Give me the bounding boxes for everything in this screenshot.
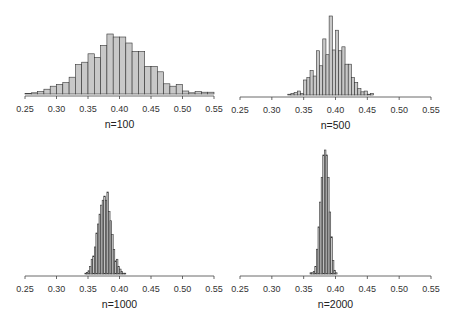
histogram-bar (195, 92, 201, 94)
x-tick-label: 0.40 (327, 105, 345, 115)
histogram-bar (176, 84, 182, 94)
histogram-bar (151, 66, 157, 94)
histogram-bar (320, 66, 323, 95)
x-axis-label: n=1000 (102, 298, 137, 310)
x-axis: 0.250.300.350.400.450.500.55 (231, 97, 440, 115)
x-tick-label: 0.35 (79, 284, 97, 294)
histogram-bar (313, 76, 316, 95)
x-axis: 0.250.300.350.400.450.500.55 (16, 276, 223, 294)
x-tick-label: 0.25 (16, 104, 34, 114)
histogram-n500: 0.250.300.350.400.450.500.55 n=500 (231, 16, 440, 131)
x-tick-label: 0.40 (327, 284, 345, 294)
x-axis: 0.250.300.350.400.450.500.55 (16, 96, 223, 114)
histogram-n100: 0.250.300.350.400.450.500.55 n=100 (16, 34, 223, 130)
histogram-bar (124, 273, 126, 274)
histogram-bar (82, 62, 88, 94)
histogram-bar (31, 93, 37, 94)
histogram-bar (300, 93, 303, 95)
x-tick-label: 0.55 (205, 284, 223, 294)
histogram-bar (132, 51, 138, 94)
histogram-bars (25, 34, 214, 94)
histogram-bar (75, 65, 81, 94)
x-tick-label: 0.55 (422, 105, 440, 115)
histogram-bars (288, 16, 374, 95)
histogram-bar (113, 37, 119, 94)
histogram-bar (294, 93, 297, 95)
x-axis-label: n=2000 (318, 298, 353, 310)
x-tick-label: 0.45 (359, 284, 377, 294)
histogram-bar (342, 47, 345, 95)
histogram-bar (189, 93, 195, 94)
histogram-bar (69, 77, 75, 94)
x-tick-label: 0.45 (142, 284, 160, 294)
histogram-bar (288, 94, 291, 95)
histogram-bar (38, 92, 44, 94)
histogram-bar (183, 91, 189, 94)
histogram-bar (126, 43, 132, 94)
histogram-bar (297, 91, 300, 95)
histogram-bar (145, 66, 151, 94)
x-tick-label: 0.25 (231, 105, 249, 115)
histogram-bar (63, 83, 69, 94)
histogram-bar (336, 30, 339, 95)
histogram-bar (164, 84, 170, 94)
x-tick-label: 0.30 (48, 104, 66, 114)
x-tick-label: 0.30 (263, 105, 281, 115)
histogram-bar (208, 92, 214, 94)
histogram-bar (351, 78, 354, 95)
histogram-bar (44, 89, 50, 94)
x-tick-label: 0.50 (390, 105, 408, 115)
histogram-bar (326, 55, 329, 95)
x-axis-label: n=500 (321, 119, 351, 131)
x-tick-label: 0.40 (111, 104, 129, 114)
histogram-bars (85, 192, 126, 274)
histogram-bar (339, 51, 342, 95)
histogram-bar (367, 94, 370, 95)
x-tick-label: 0.50 (390, 284, 408, 294)
histogram-bar (316, 51, 319, 95)
x-tick-label: 0.45 (359, 105, 377, 115)
histogram-bar (291, 93, 294, 95)
histogram-bar (57, 84, 63, 94)
histogram-bar (307, 78, 310, 95)
histogram-n1000: 0.250.300.350.400.450.500.55 n=1000 (16, 192, 223, 310)
x-tick-label: 0.35 (295, 284, 313, 294)
histogram-bar (364, 91, 367, 95)
histogram-bar (25, 93, 31, 94)
histogram-bar (304, 80, 307, 95)
histogram-bar (358, 89, 361, 95)
x-tick-label: 0.30 (48, 284, 66, 294)
x-tick-label: 0.30 (263, 284, 281, 294)
histogram-bar (101, 45, 107, 94)
histogram-bar (94, 57, 100, 94)
x-tick-label: 0.25 (16, 284, 34, 294)
histogram-bar (138, 51, 144, 94)
histogram-bar (345, 64, 348, 95)
histogram-bar (157, 72, 163, 94)
x-tick-label: 0.55 (422, 284, 440, 294)
histogram-bar (310, 71, 313, 95)
histogram-bar (107, 34, 113, 94)
x-tick-label: 0.25 (231, 284, 249, 294)
x-tick-label: 0.35 (79, 104, 97, 114)
histogram-bar (120, 37, 126, 94)
x-axis: 0.250.300.350.400.450.500.55 (231, 276, 440, 294)
histogram-bars (310, 150, 337, 274)
histogram-grid: 0.250.300.350.400.450.500.55 n=100 0.250… (0, 0, 453, 318)
histogram-bar (332, 50, 335, 95)
x-axis-label: n=100 (105, 118, 135, 130)
histogram-bar (329, 16, 332, 95)
x-tick-label: 0.50 (174, 104, 192, 114)
histogram-bar (371, 93, 374, 95)
x-tick-label: 0.40 (111, 284, 129, 294)
x-tick-label: 0.50 (174, 284, 192, 294)
histogram-bar (88, 54, 94, 94)
histogram-n2000: 0.250.300.350.400.450.500.55 n=2000 (231, 150, 440, 310)
histogram-bar (336, 273, 338, 274)
x-tick-label: 0.35 (295, 105, 313, 115)
histogram-bar (50, 86, 56, 94)
histogram-bar (201, 92, 207, 94)
x-tick-label: 0.55 (205, 104, 223, 114)
x-tick-label: 0.45 (142, 104, 160, 114)
histogram-bar (323, 39, 326, 95)
